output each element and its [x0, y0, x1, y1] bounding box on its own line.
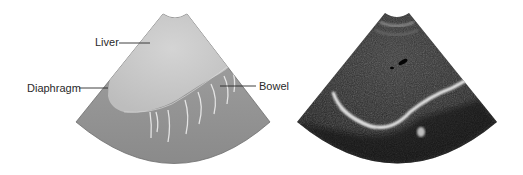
ultrasound-fan [290, 10, 505, 175]
label-liver: Liver [95, 36, 119, 48]
label-bowel: Bowel [259, 80, 289, 92]
label-diaphragm: Diaphragm [27, 82, 81, 94]
